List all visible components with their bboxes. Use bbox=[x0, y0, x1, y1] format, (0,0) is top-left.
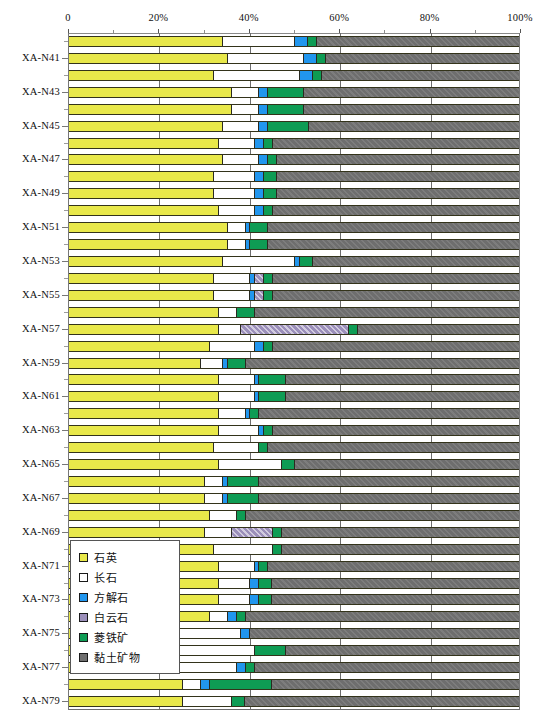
bar-segment-siderite bbox=[263, 206, 272, 215]
bar-segment-feldspar bbox=[222, 122, 258, 131]
x-tick-label: 40% bbox=[239, 12, 259, 23]
bar-row bbox=[69, 188, 519, 199]
gridline bbox=[250, 33, 251, 710]
bar-segment-clay bbox=[272, 426, 520, 435]
bar-segment-quartz bbox=[69, 426, 218, 435]
bar-segment-siderite bbox=[281, 460, 294, 469]
bar-row bbox=[69, 425, 519, 436]
bar-segment-feldspar bbox=[209, 342, 254, 351]
stacked-bar bbox=[69, 527, 519, 538]
bar-row bbox=[69, 307, 519, 318]
bar-segment-clay bbox=[258, 409, 519, 418]
x-tick-label: 20% bbox=[148, 12, 168, 23]
bar-segment-feldspar bbox=[222, 257, 294, 266]
stacked-bar bbox=[69, 493, 519, 504]
category-label: XA-N63 bbox=[22, 424, 60, 435]
bar-row bbox=[69, 510, 519, 521]
bar-segment-feldspar bbox=[213, 545, 272, 554]
bar-row bbox=[69, 442, 519, 453]
stacked-bar bbox=[69, 70, 519, 81]
legend-item-dolomite[interactable]: 白云石 bbox=[79, 607, 173, 627]
bar-segment-feldspar bbox=[213, 291, 249, 300]
stacked-bar bbox=[69, 307, 519, 318]
bar-segment-siderite bbox=[227, 359, 245, 368]
legend-item-calcite[interactable]: 方解石 bbox=[79, 587, 173, 607]
bar-segment-siderite bbox=[263, 426, 272, 435]
bar-segment-clay bbox=[281, 545, 520, 554]
bar-segment-siderite bbox=[348, 325, 357, 334]
bar-row bbox=[69, 273, 519, 284]
bar-segment-feldspar bbox=[218, 139, 254, 148]
bar-segment-quartz bbox=[69, 494, 204, 503]
legend-item-feldspar[interactable]: 长石 bbox=[79, 567, 173, 587]
bar-segment-quartz bbox=[69, 240, 227, 249]
legend-item-quartz[interactable]: 石英 bbox=[79, 547, 173, 567]
bar-segment-quartz bbox=[69, 375, 218, 384]
category-label: XA-N71 bbox=[22, 560, 60, 571]
category-label: XA-N77 bbox=[22, 661, 60, 672]
bar-segment-quartz bbox=[69, 155, 222, 164]
bar-segment-calcite bbox=[254, 189, 263, 198]
bar-segment-feldspar bbox=[204, 528, 231, 537]
bar-segment-clay bbox=[303, 88, 519, 97]
stacked-bar bbox=[69, 188, 519, 199]
bar-segment-feldspar bbox=[218, 392, 254, 401]
bar-segment-calcite bbox=[249, 595, 258, 604]
bar-segment-siderite bbox=[258, 595, 271, 604]
bar-row bbox=[69, 290, 519, 301]
bar-segment-feldspar bbox=[218, 308, 236, 317]
bar-segment-clay bbox=[276, 189, 519, 198]
bar-segment-clay bbox=[321, 71, 519, 80]
bar-segment-feldspar bbox=[209, 511, 236, 520]
bar-segment-feldspar bbox=[182, 697, 232, 706]
bar-segment-feldspar bbox=[227, 240, 245, 249]
bar-segment-clay bbox=[267, 240, 519, 249]
stacked-bar bbox=[69, 358, 519, 369]
bar-segment-clay bbox=[316, 37, 519, 46]
bar-segment-dolomite bbox=[231, 528, 272, 537]
bar-segment-clay bbox=[357, 325, 519, 334]
bar-row bbox=[69, 679, 519, 690]
category-label: XA-N59 bbox=[22, 357, 60, 368]
bar-segment-quartz bbox=[69, 359, 200, 368]
stacked-bar bbox=[69, 222, 519, 233]
bar-segment-quartz bbox=[69, 71, 213, 80]
bar-segment-calcite bbox=[299, 71, 312, 80]
bar-segment-calcite bbox=[258, 105, 267, 114]
bar-segment-siderite bbox=[316, 54, 325, 63]
gridline bbox=[431, 33, 432, 710]
bar-segment-clay bbox=[294, 460, 519, 469]
bar-segment-clay bbox=[303, 105, 519, 114]
stacked-bar bbox=[69, 154, 519, 165]
bar-row bbox=[69, 239, 519, 250]
category-label: XA-N53 bbox=[22, 255, 60, 266]
bar-segment-feldspar bbox=[218, 595, 249, 604]
bar-row bbox=[69, 408, 519, 419]
bar-segment-quartz bbox=[69, 528, 204, 537]
stacked-bar bbox=[69, 273, 519, 284]
stacked-bar bbox=[69, 290, 519, 301]
legend-label: 菱铁矿 bbox=[94, 629, 129, 645]
bar-segment-feldspar bbox=[227, 54, 304, 63]
bar-segment-siderite bbox=[267, 88, 303, 97]
stacked-bar bbox=[69, 138, 519, 149]
bar-row bbox=[69, 527, 519, 538]
bar-row bbox=[69, 341, 519, 352]
legend-item-siderite[interactable]: 菱铁矿 bbox=[79, 627, 173, 647]
bar-segment-quartz bbox=[69, 680, 182, 689]
bar-segment-feldspar bbox=[213, 189, 254, 198]
x-tick-label: 80% bbox=[420, 12, 440, 23]
bar-segment-quartz bbox=[69, 223, 227, 232]
bar-segment-siderite bbox=[263, 189, 276, 198]
legend: 石英长石方解石白云石菱铁矿黏土矿物 bbox=[70, 540, 180, 674]
bar-segment-clay bbox=[272, 139, 520, 148]
bar-segment-siderite bbox=[254, 646, 285, 655]
category-label: XA-N41 bbox=[22, 52, 60, 63]
legend-item-clay[interactable]: 黏土矿物 bbox=[79, 647, 173, 667]
bar-segment-clay bbox=[245, 359, 520, 368]
bar-segment-calcite bbox=[249, 579, 258, 588]
bar-segment-calcite bbox=[258, 122, 267, 131]
bar-segment-quartz bbox=[69, 105, 231, 114]
bar-segment-feldspar bbox=[213, 71, 299, 80]
